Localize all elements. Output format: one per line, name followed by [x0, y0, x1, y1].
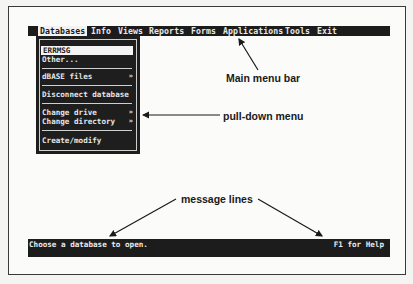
- help-hint: F1 for Help: [334, 240, 384, 249]
- status-message: Choose a database to open.: [29, 240, 148, 249]
- arrow-to-message-left-icon: [110, 199, 176, 236]
- arrow-to-menu-bar-icon: [239, 39, 258, 70]
- message-line-bar: Choose a database to open. F1 for Help: [28, 239, 390, 257]
- arrow-to-message-right-icon: [258, 199, 322, 236]
